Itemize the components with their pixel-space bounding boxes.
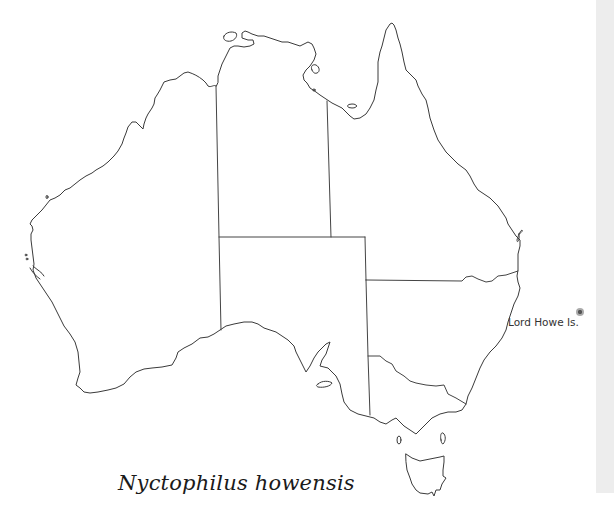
mainland-coastline [30, 23, 520, 434]
border-nt-qld [327, 101, 331, 237]
australia-map [0, 0, 614, 532]
border-wa-nt-sa [216, 86, 221, 330]
small-island-gulf [313, 89, 315, 91]
border-nsw-vic [368, 356, 466, 404]
tasmania [406, 454, 446, 496]
species-title: Nyctophilus howensis [118, 471, 355, 495]
abrolhos-island-2 [26, 258, 28, 260]
border-qld-nsw [366, 271, 518, 282]
wellesley-island [348, 104, 357, 108]
groote-eylandt [311, 65, 319, 74]
shark-bay-peninsula [30, 266, 44, 279]
abrolhos-island-1 [25, 254, 27, 256]
lord-howe-island-marker [576, 308, 584, 316]
border-sa-qld-east [365, 237, 366, 280]
tiwi-islands [224, 32, 237, 41]
kangaroo-island [317, 381, 333, 387]
lord-howe-island-label: Lord Howe Is. [508, 316, 579, 328]
border-sa-nsw-vic [366, 280, 370, 415]
flinders-island [441, 433, 446, 444]
king-island [397, 436, 401, 444]
wa-island-north [46, 195, 48, 198]
